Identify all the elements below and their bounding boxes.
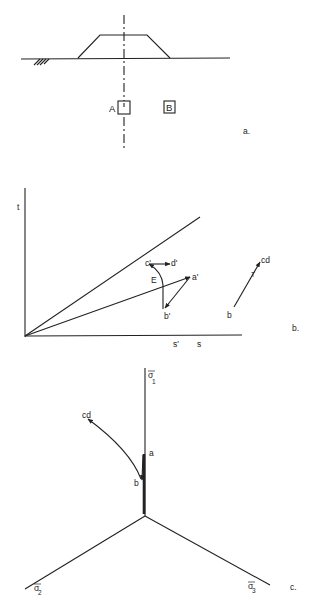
path-b-to-cd <box>88 419 141 479</box>
k0-line <box>25 277 190 336</box>
a-prime-label: a' <box>192 272 199 282</box>
element-b-label: B <box>166 102 172 113</box>
panel-b-caption: b. <box>292 323 299 333</box>
panel-c-caption: c. <box>290 582 297 592</box>
svg-text:3: 3 <box>252 587 256 594</box>
panel-c: a b cd σ 1 σ 2 σ 3 c. <box>25 368 297 596</box>
s-prime-label: s' <box>173 339 179 349</box>
b-label: b <box>227 310 232 320</box>
t-marker: T <box>251 271 255 278</box>
c-prime-label: c' <box>145 258 151 268</box>
ground-surface <box>21 58 230 59</box>
svg-text:2: 2 <box>38 589 42 596</box>
element-a-box <box>118 101 130 114</box>
sigma3-label: σ 3 <box>248 581 256 594</box>
cd-label: cd <box>82 410 91 420</box>
svg-text:1: 1 <box>152 378 156 385</box>
path-b-to-c-curve <box>149 264 163 309</box>
d-prime-label: d' <box>171 258 178 268</box>
a-label: a <box>149 448 154 458</box>
s-label: s <box>197 339 201 349</box>
sigma3-axis <box>145 516 270 585</box>
element-a-label: A <box>109 103 116 114</box>
sigma1-label: σ 1 <box>148 370 156 385</box>
b-label: b <box>134 478 139 488</box>
panel-a: A B a. <box>21 15 250 150</box>
sigma2-axis <box>25 516 145 589</box>
panel-a-caption: a. <box>243 126 250 136</box>
e-curve-label: E <box>151 275 157 285</box>
failure-envelope <box>25 217 200 336</box>
s-axis <box>25 335 242 336</box>
t-axis-label: t <box>17 202 20 212</box>
panel-b: t s' s a' b' c' d' E b cd T b. <box>17 188 299 349</box>
cd-label: cd <box>261 255 270 265</box>
figure-canvas: A B a. t s' s a' b' c' d' E b cd T b. <box>0 0 312 602</box>
b-prime-label: b' <box>164 311 171 321</box>
total-path-b-to-cd <box>234 262 260 307</box>
sigma2-label: σ 2 <box>34 583 42 596</box>
ground-hatch-icon <box>34 59 49 65</box>
